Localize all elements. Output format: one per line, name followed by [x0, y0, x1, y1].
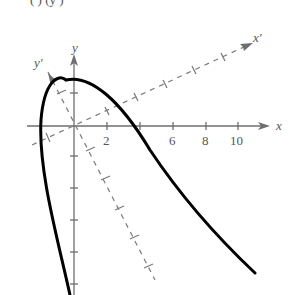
- y-axis: [70, 62, 78, 295]
- x-axis-label: x: [275, 118, 282, 133]
- parabola-curve: [41, 78, 255, 295]
- x-axis: [27, 122, 262, 130]
- rotated-parabola-figure: ( ) (y ) x 2 6 8 10 y: [0, 0, 293, 295]
- caption-fragment: ( ) (y ): [30, 0, 64, 7]
- x-tick-label: 10: [230, 133, 243, 148]
- x-prime-arrow-icon: [240, 43, 253, 51]
- x-tick-label: 6: [169, 133, 176, 148]
- y-prime-label: y′: [32, 55, 43, 70]
- x-prime-label: x′: [252, 30, 262, 45]
- x-tick-label: 2: [103, 133, 110, 148]
- y-prime-axis: [48, 72, 155, 280]
- x-tick-label: 8: [202, 133, 209, 148]
- y-axis-label: y: [70, 40, 78, 55]
